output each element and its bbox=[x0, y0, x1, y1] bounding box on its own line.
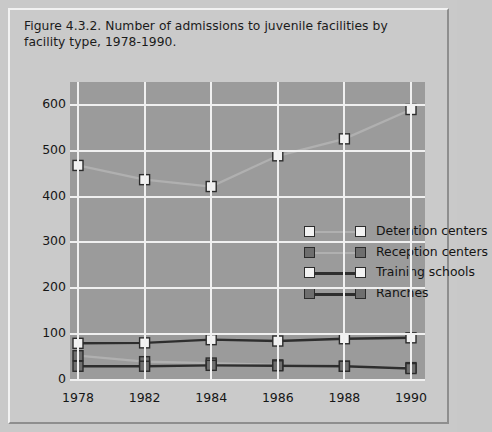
legend-line-icon bbox=[308, 231, 360, 233]
y-tick-label: 100 bbox=[20, 325, 66, 340]
gridline-horizontal bbox=[70, 287, 425, 289]
series-line bbox=[78, 365, 411, 368]
x-tick-label: 1990 bbox=[381, 390, 441, 405]
gridline-vertical bbox=[410, 82, 412, 380]
figure-frame: Figure 4.3.2. Number of admissions to ju… bbox=[8, 8, 449, 424]
y-tick-label: 200 bbox=[20, 279, 66, 294]
plot-area: Detention centersReception centersTraini… bbox=[70, 82, 425, 380]
gridline-vertical bbox=[210, 82, 212, 380]
legend-marker-icon bbox=[355, 267, 366, 278]
legend-marker-icon bbox=[304, 226, 315, 237]
legend-item: Training schools bbox=[302, 263, 492, 284]
series-line bbox=[78, 110, 411, 187]
x-tick-label: 1986 bbox=[248, 390, 308, 405]
figure-title: Figure 4.3.2. Number of admissions to ju… bbox=[24, 19, 424, 50]
gridline-vertical bbox=[277, 82, 279, 380]
y-tick-label: 0 bbox=[20, 371, 66, 386]
gridline-horizontal bbox=[70, 333, 425, 335]
legend-line-icon bbox=[308, 252, 360, 254]
x-axis-labels: 197819821984198619881990 bbox=[70, 388, 425, 410]
legend-marker-icon bbox=[355, 226, 366, 237]
legend-line-icon bbox=[308, 293, 360, 296]
x-tick-label: 1978 bbox=[48, 390, 108, 405]
legend-marker-icon bbox=[304, 247, 315, 258]
gridline-horizontal bbox=[70, 104, 425, 106]
gridline-horizontal bbox=[70, 241, 425, 243]
y-tick-label: 400 bbox=[20, 188, 66, 203]
legend-item: Reception centers bbox=[302, 243, 492, 264]
x-tick-label: 1988 bbox=[314, 390, 374, 405]
y-axis-labels: 0100200300400500600 bbox=[10, 82, 66, 380]
legend-item: Detention centers bbox=[302, 222, 492, 243]
gridline-horizontal bbox=[70, 379, 425, 381]
chart-legend: Detention centersReception centersTraini… bbox=[302, 222, 492, 304]
x-tick-label: 1982 bbox=[115, 390, 175, 405]
gridline-vertical bbox=[144, 82, 146, 380]
legend-marker-icon bbox=[304, 267, 315, 278]
y-tick-label: 300 bbox=[20, 233, 66, 248]
y-tick-label: 500 bbox=[20, 142, 66, 157]
x-tick-label: 1984 bbox=[181, 390, 241, 405]
gridline-horizontal bbox=[70, 150, 425, 152]
y-tick-label: 600 bbox=[20, 96, 66, 111]
legend-line-icon bbox=[308, 272, 360, 275]
gridline-vertical bbox=[343, 82, 345, 380]
gridline-vertical bbox=[77, 82, 79, 380]
legend-label: Training schools bbox=[376, 264, 475, 279]
legend-label: Reception centers bbox=[376, 244, 488, 259]
series-line bbox=[78, 338, 411, 344]
legend-marker-icon bbox=[355, 247, 366, 258]
gridline-horizontal bbox=[70, 196, 425, 198]
legend-label: Detention centers bbox=[376, 223, 488, 238]
